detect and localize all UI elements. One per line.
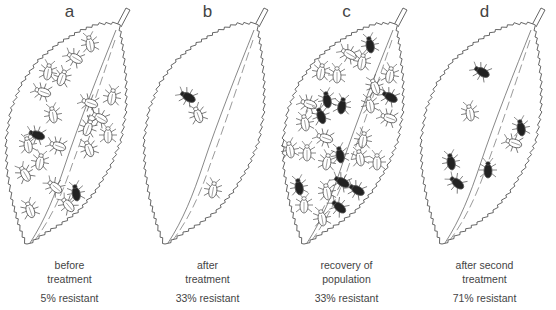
panel-letter: b <box>138 2 277 22</box>
panel-letter: d <box>415 2 554 22</box>
resistant-percentage: 5% resistant <box>0 292 139 304</box>
caption-line-2: treatment <box>0 272 139 286</box>
panel-d: d after second treatment 71% resistant <box>415 0 554 310</box>
panel-a: a before treatment 5% resistant <box>0 0 139 310</box>
resistant-percentage: 71% resistant <box>415 292 554 304</box>
panel-caption: after treatment <box>138 258 277 286</box>
caption-line-2: population <box>277 272 416 286</box>
resistant-percentage: 33% resistant <box>277 292 416 304</box>
resistant-percentage: 33% resistant <box>138 292 277 304</box>
caption-line-2: treatment <box>415 272 554 286</box>
caption-line-2: treatment <box>138 272 277 286</box>
panel-caption: recovery of population <box>277 258 416 286</box>
leaf-illustration <box>0 0 139 250</box>
leaf-illustration <box>277 0 416 250</box>
caption-line-1: recovery of <box>277 258 416 272</box>
panel-b: b after treatment 33% resistant <box>138 0 277 310</box>
leaf-illustration <box>138 0 277 250</box>
caption-line-1: after second <box>415 258 554 272</box>
caption-line-1: before <box>0 258 139 272</box>
leaf-outline <box>143 22 265 244</box>
panel-caption: before treatment <box>0 258 139 286</box>
leaf-illustration <box>415 0 554 250</box>
panel-letter: c <box>277 2 416 22</box>
panel-c: c recovery of population 33% resistant <box>277 0 416 310</box>
panel-caption: after second treatment <box>415 258 554 286</box>
caption-line-1: after <box>138 258 277 272</box>
panel-letter: a <box>0 2 139 22</box>
